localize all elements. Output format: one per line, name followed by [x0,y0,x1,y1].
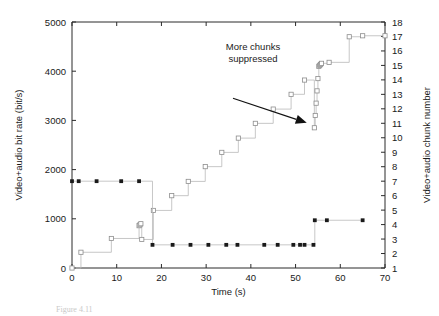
y-tick-label: 2000 [45,164,66,175]
y-axis-right-ticks: 123456789101112131415161718 [381,17,403,274]
data-point-marker [171,243,175,247]
y2-tick-label: 15 [392,60,403,71]
data-point-marker [109,236,113,240]
data-point-marker [224,243,228,247]
data-point-marker [79,250,83,254]
y2-tick-label: 7 [392,176,397,187]
data-point-marker [119,179,123,183]
y-axis-left-label: Video+audio bit rate (bit/s) [13,90,24,201]
data-point-marker [70,179,74,183]
data-point-marker [140,237,144,241]
y2-tick-label: 12 [392,103,403,114]
y-tick-label: 0 [61,263,66,274]
data-point-marker [236,136,240,140]
data-point-marker [220,150,224,154]
data-point-marker [313,218,317,222]
data-point-marker [327,60,331,64]
data-point-marker [77,179,81,183]
data-point-marker [291,243,295,247]
y2-tick-label: 16 [392,45,403,56]
data-point-marker [151,208,155,212]
data-point-marker [312,243,316,247]
data-point-marker [262,243,266,247]
x-tick-label: 50 [290,272,301,283]
data-point-marker [325,218,329,222]
data-point-marker [312,126,316,130]
data-point-marker [137,179,141,183]
y2-tick-label: 17 [392,31,403,42]
y2-tick-label: 4 [392,219,397,230]
y2-tick-label: 9 [392,147,397,158]
y2-tick-label: 18 [392,17,403,28]
y2-tick-label: 2 [392,248,397,259]
annotation-text-line1: More chunks [226,41,281,52]
y2-tick-label: 6 [392,190,397,201]
y2-tick-label: 13 [392,89,403,100]
data-point-marker [70,266,74,270]
y-axis-left-ticks: 010002000300040005000 [45,17,76,274]
data-point-marker [383,34,387,38]
x-tick-label: 10 [111,272,122,283]
x-tick-label: 0 [69,272,74,283]
y-tick-label: 3000 [45,115,66,126]
figure-container: 010203040506070 010002000300040005000 12… [0,0,439,316]
data-point-marker [151,243,155,247]
data-point-marker [253,121,257,125]
data-point-marker [361,218,365,222]
data-point-marker [316,76,320,80]
data-point-marker [303,243,307,247]
y-axis-right-label: Video+audio chunk number [421,87,432,203]
data-point-marker [289,92,293,96]
y2-tick-label: 10 [392,132,403,143]
x-tick-label: 30 [201,272,212,283]
data-point-marker [276,243,280,247]
series-line-1 [72,181,363,245]
y-tick-label: 1000 [45,213,66,224]
data-point-marker [313,113,317,117]
data-point-marker [302,78,306,82]
data-point-marker [298,243,302,247]
figure-caption: Figure 4.11 [56,305,93,314]
data-point-marker [170,194,174,198]
y2-tick-label: 3 [392,234,397,245]
y2-tick-label: 8 [392,161,397,172]
data-point-marker [271,107,275,111]
y2-tick-label: 5 [392,205,397,216]
x-tick-label: 70 [380,272,391,283]
data-point-marker [186,179,190,183]
data-point-marker [319,61,323,65]
y2-tick-label: 11 [392,118,402,129]
x-tick-label: 20 [156,272,167,283]
x-tick-label: 60 [335,272,346,283]
series-layer [70,34,387,270]
data-point-marker [347,35,351,39]
data-point-marker [206,243,210,247]
x-axis-label: Time (s) [211,286,245,297]
data-point-marker [236,243,240,247]
annotation-arrow-head [295,115,307,124]
x-tick-label: 40 [246,272,257,283]
y-tick-label: 5000 [45,17,66,28]
annotation-text-line2: suppressed [228,53,277,64]
y-tick-label: 4000 [45,66,66,77]
annotation-layer: More chunks suppressed [226,41,307,124]
data-point-marker [189,243,193,247]
chart-canvas: 010203040506070 010002000300040005000 12… [0,0,439,316]
data-point-marker [314,101,318,105]
y2-tick-label: 14 [392,74,403,85]
data-point-marker [95,179,99,183]
data-point-marker [315,89,319,93]
y2-tick-label: 1 [392,263,397,274]
data-point-marker [203,165,207,169]
data-point-marker [139,222,143,226]
data-point-marker [361,34,365,38]
series-line-0 [72,36,385,268]
